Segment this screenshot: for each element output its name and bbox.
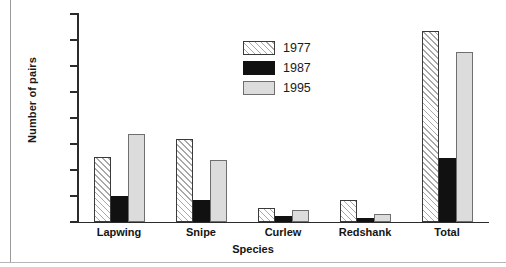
y-axis-tick-mark <box>70 221 78 223</box>
x-axis-label-total: Total <box>397 226 497 238</box>
bar-redshank-1987 <box>357 218 374 222</box>
y-axis-tick-mark <box>70 143 78 145</box>
bar-redshank-1995 <box>374 214 391 222</box>
y-axis-tick-mark <box>70 117 78 119</box>
bar-total-1977 <box>422 31 439 222</box>
bar-curlew-1987 <box>275 216 292 223</box>
y-axis-tick-mark <box>70 39 78 41</box>
bar-lapwing-1987 <box>111 196 128 222</box>
y-axis-tick-mark <box>70 169 78 171</box>
legend-label-1987: 1987 <box>283 61 311 75</box>
bar-curlew-1977 <box>258 208 275 222</box>
y-axis-title: Number of pairs <box>26 40 38 160</box>
bar-chart-figure: Number of pairs 020406080100120140160 La… <box>0 0 506 267</box>
bar-group-snipe <box>176 14 227 222</box>
legend-label-1977: 1977 <box>283 41 311 55</box>
y-axis-tick-mark <box>70 91 78 93</box>
y-axis-tick-mark <box>70 195 78 197</box>
bar-total-1995 <box>456 52 473 222</box>
chart-legend: 197719871995 <box>243 38 311 98</box>
bar-total-1987 <box>439 158 456 222</box>
bar-snipe-1995 <box>210 160 227 222</box>
legend-label-1995: 1995 <box>283 81 311 95</box>
bar-lapwing-1995 <box>128 134 145 222</box>
x-axis-title: Species <box>0 243 506 255</box>
bar-group-total <box>422 14 473 222</box>
bar-group-redshank <box>340 14 391 222</box>
y-axis-tick-mark <box>70 65 78 67</box>
bar-redshank-1977 <box>340 200 357 222</box>
y-axis-tick-mark <box>70 13 78 15</box>
legend-swatch-1987 <box>243 61 275 75</box>
legend-item-1995: 1995 <box>243 78 311 98</box>
legend-item-1987: 1987 <box>243 58 311 78</box>
bar-snipe-1987 <box>193 200 210 222</box>
legend-item-1977: 1977 <box>243 38 311 58</box>
bar-group-lapwing <box>94 14 145 222</box>
bar-lapwing-1977 <box>94 157 111 222</box>
bar-snipe-1977 <box>176 139 193 222</box>
legend-swatch-1995 <box>243 81 275 95</box>
legend-swatch-1977 <box>243 41 275 55</box>
bar-curlew-1995 <box>292 210 309 222</box>
